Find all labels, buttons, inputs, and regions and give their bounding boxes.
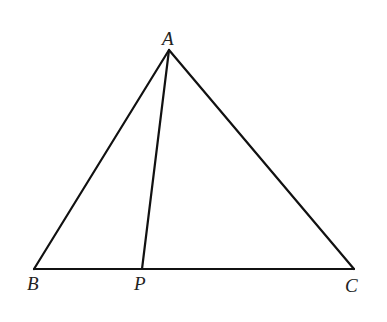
segment-ap xyxy=(142,50,169,269)
label-p: P xyxy=(133,273,146,294)
segment-ac xyxy=(169,50,354,269)
label-b: B xyxy=(27,273,39,294)
segment-ab xyxy=(34,50,169,269)
triangle-diagram: A B P C xyxy=(0,0,387,322)
label-a: A xyxy=(160,28,174,49)
label-c: C xyxy=(345,275,358,296)
